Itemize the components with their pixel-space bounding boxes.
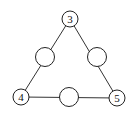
node-bottom-left: 4 <box>13 89 29 105</box>
node-bottom-right-label: 5 <box>114 92 120 104</box>
node-bottom-right: 5 <box>109 90 125 106</box>
node-bottom-left-label: 4 <box>18 91 24 103</box>
node-top-label: 3 <box>67 13 73 25</box>
node-left-mid <box>36 48 55 67</box>
triangle-diagram: 3 4 5 <box>0 0 138 113</box>
node-top: 3 <box>62 11 78 27</box>
node-bottom-mid <box>60 88 79 107</box>
node-right-mid <box>88 48 107 67</box>
